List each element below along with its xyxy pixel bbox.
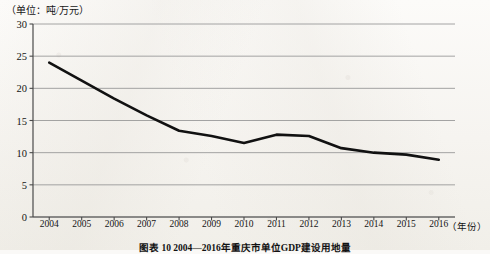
x-tick-label: 2015 xyxy=(397,219,416,229)
y-tick-label: 25 xyxy=(3,51,27,62)
y-tick-label: 5 xyxy=(3,179,27,190)
figure-caption: 图表 10 2004—2016年重庆市单位GDP建设用地量 xyxy=(0,240,490,254)
x-tick-label: 2009 xyxy=(202,219,221,229)
x-tick-label: 2013 xyxy=(332,219,351,229)
x-axis-title: （年份） xyxy=(447,219,487,233)
x-tick-label: 2010 xyxy=(235,219,254,229)
x-tick-label: 2016 xyxy=(429,219,448,229)
x-tick-label: 2005 xyxy=(72,219,91,229)
y-tick-label: 20 xyxy=(3,83,27,94)
x-tick-label: 2014 xyxy=(364,219,383,229)
data-series-line xyxy=(49,63,439,160)
x-tick-label: 2011 xyxy=(267,219,286,229)
x-tick-label: 2007 xyxy=(137,219,156,229)
y-tick-label: 10 xyxy=(3,147,27,158)
x-tick-label: 2008 xyxy=(170,219,189,229)
y-tick-label: 15 xyxy=(3,115,27,126)
y-tick-label: 30 xyxy=(3,19,27,30)
x-tick-label: 2012 xyxy=(299,219,318,229)
x-tick-label: 2006 xyxy=(105,219,124,229)
y-tick-label: 0 xyxy=(3,212,27,223)
x-tick-label: 2004 xyxy=(40,219,59,229)
